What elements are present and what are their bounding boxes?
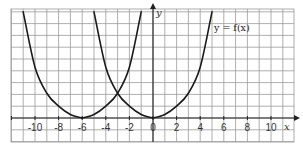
x-tick-label: 0 — [150, 122, 156, 133]
function-graph: -10-8-6-4-20246810 y x y = f(x) — [0, 0, 303, 154]
x-tick-label: -2 — [125, 122, 134, 133]
x-tick-label: -10 — [28, 122, 43, 133]
curve-series — [82, 12, 141, 118]
curve-series — [153, 12, 212, 118]
x-tick-label: 4 — [197, 122, 203, 133]
x-tick-label: 10 — [265, 122, 277, 133]
x-tick-label: 8 — [245, 122, 251, 133]
x-tick-label: 6 — [221, 122, 227, 133]
x-axis-label: x — [284, 121, 290, 132]
tick-labels: -10-8-6-4-20246810 — [28, 122, 277, 133]
curve-series — [94, 12, 153, 118]
x-tick-label: -8 — [54, 122, 63, 133]
curve-series — [23, 12, 82, 118]
x-tick-label: -4 — [101, 122, 110, 133]
curve-label: y = f(x) — [213, 22, 250, 33]
x-tick-label: -6 — [78, 122, 87, 133]
x-tick-label: 2 — [174, 122, 180, 133]
y-axis-label: y — [155, 7, 162, 18]
